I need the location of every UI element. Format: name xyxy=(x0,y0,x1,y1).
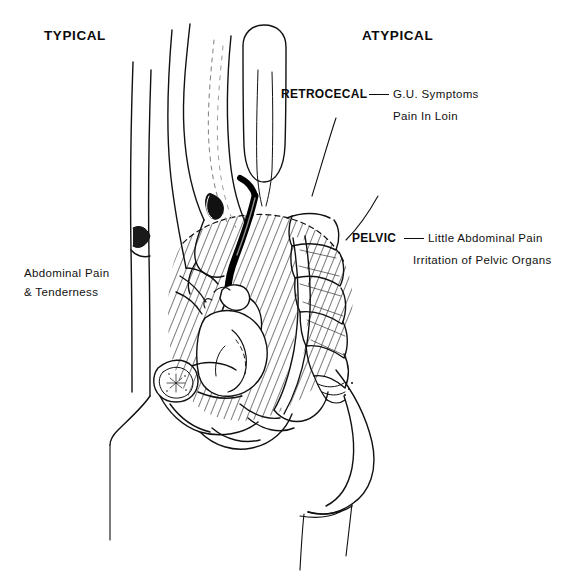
callout-retrocecal-line1: G.U. Symptoms xyxy=(393,88,479,100)
callout-pelvic-line1: Little Abdominal Pain xyxy=(428,232,543,244)
bladder xyxy=(197,311,267,397)
leader-lines xyxy=(297,118,378,240)
buttock xyxy=(300,370,374,517)
callout-term-pelvic: PELVIC xyxy=(352,231,396,245)
side-label-line2: & Tenderness xyxy=(24,284,98,300)
heading-typical: TYPICAL xyxy=(44,28,106,43)
callout-dash-retrocecal xyxy=(369,94,389,95)
callout-retrocecal-line2: Pain In Loin xyxy=(393,110,458,122)
abdominal-wall xyxy=(131,62,151,396)
callout-term-retrocecal: RETROCECAL xyxy=(281,87,367,101)
callout-pelvic-line2: Irritation of Pelvic Organs xyxy=(413,254,552,266)
callout-dash-pelvic xyxy=(404,238,424,239)
appendix-position-diagram: TYPICAL ATYPICAL RETROCECAL G.U. Symptom… xyxy=(0,0,583,571)
heading-atypical: ATYPICAL xyxy=(362,28,433,43)
side-label-line1: Abdominal Pain xyxy=(24,265,109,281)
